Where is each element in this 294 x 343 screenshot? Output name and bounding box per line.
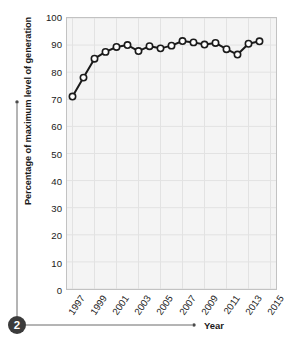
data-point	[157, 45, 163, 51]
data-point	[113, 44, 119, 50]
data-point	[234, 51, 240, 57]
data-point	[256, 38, 262, 44]
data-point	[201, 41, 207, 47]
x-tick-label: 2001	[99, 293, 131, 332]
y-axis-tick-labels: 0102030405060708090100	[36, 10, 62, 298]
data-point	[102, 49, 108, 55]
y-tick-label: 60	[36, 121, 62, 132]
line-chart-canvas	[67, 18, 276, 289]
x-tick-label: 1999	[77, 293, 109, 332]
y-tick-label: 40	[36, 175, 62, 186]
x-tick-label: 2013	[232, 293, 264, 332]
x-tick-label: 1997	[55, 293, 87, 332]
data-point	[190, 39, 196, 45]
data-point	[168, 42, 174, 48]
y-tick-label: 20	[36, 230, 62, 241]
x-tick-label: 2007	[166, 293, 198, 332]
data-point	[80, 74, 86, 80]
x-axis-title: Year	[204, 320, 224, 331]
y-tick-label: 50	[36, 148, 62, 159]
chart-figure: Percentage of maximum level of generatio…	[0, 0, 294, 343]
x-tick-label: 2003	[121, 293, 153, 332]
plot-area	[66, 17, 277, 290]
callout-badge-2: 2	[8, 316, 26, 334]
y-tick-label: 90	[36, 39, 62, 50]
data-point	[124, 42, 130, 48]
y-tick-label: 30	[36, 203, 62, 214]
data-point	[212, 40, 218, 46]
data-series-line	[72, 41, 259, 97]
y-tick-label: 70	[36, 93, 62, 104]
y-tick-label: 80	[36, 66, 62, 77]
y-tick-label: 0	[36, 285, 62, 296]
y-tick-label: 100	[36, 12, 62, 23]
data-point	[69, 93, 75, 99]
data-point	[135, 48, 141, 54]
data-point	[245, 41, 251, 47]
data-point	[91, 55, 97, 61]
x-tick-label: 2005	[143, 293, 175, 332]
data-point	[179, 38, 185, 44]
y-axis-title: Percentage of maximum level of generatio…	[22, 11, 34, 211]
y-tick-label: 10	[36, 257, 62, 268]
data-point	[146, 43, 152, 49]
data-point	[223, 46, 229, 52]
x-tick-label: 2015	[254, 293, 286, 332]
